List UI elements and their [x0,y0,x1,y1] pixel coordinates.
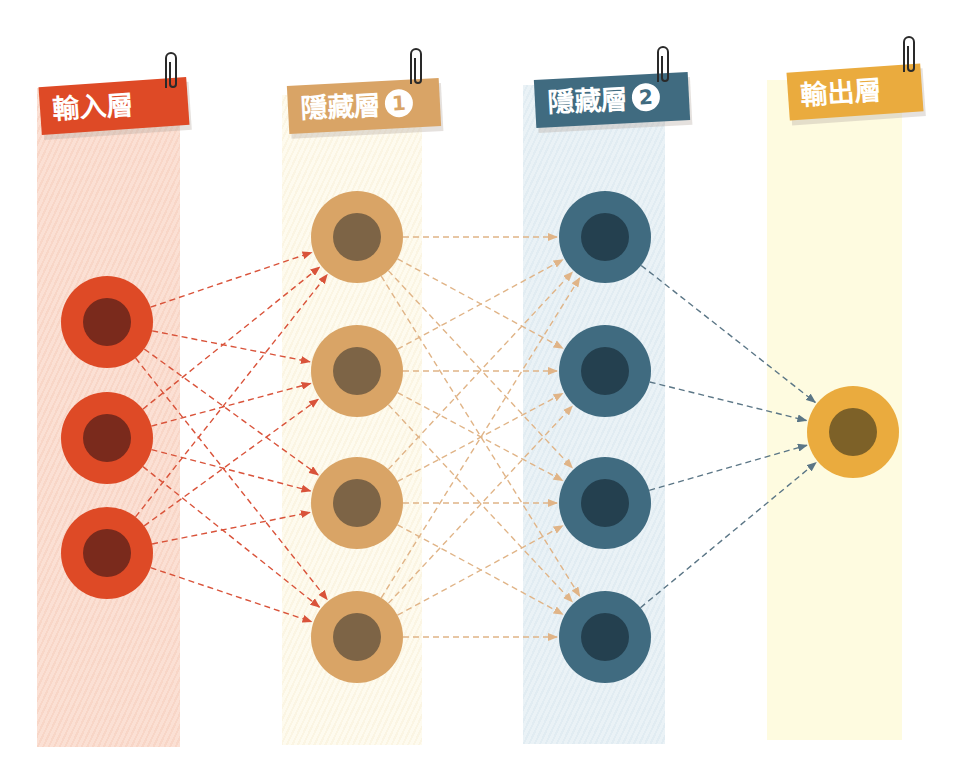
paperclip-icon [405,44,427,90]
node-core [581,347,629,395]
connection-input-2-to-hidden1-3 [151,568,312,622]
connection-input-1-to-hidden1-1 [151,383,310,426]
connection-hidden2-2-to-output-0 [649,445,807,490]
hidden1-node-3 [311,457,403,549]
output-node-1 [807,386,899,478]
node-core [333,213,381,261]
connection-input-2-to-hidden1-1 [144,399,318,526]
node-core [333,479,381,527]
output-layer-title: 輸出層 [799,74,882,111]
connection-hidden1-0-to-hidden2-2 [388,271,572,468]
hidden2-node-4 [559,591,651,683]
connection-input-0-to-hidden1-2 [144,349,318,475]
connection-hidden2-3-to-output-0 [640,463,816,608]
connection-hidden1-1-to-hidden2-2 [398,393,563,481]
connection-input-1-to-hidden1-3 [143,467,319,607]
input-node-2 [61,392,153,484]
connection-input-0-to-hidden1-0 [151,252,312,307]
connection-hidden1-2-to-hidden2-1 [398,394,563,482]
node-core [333,347,381,395]
connection-hidden1-3-to-hidden2-2 [397,526,562,615]
hidden1-node-1 [311,191,403,283]
connection-hidden1-0-to-hidden2-1 [397,259,562,348]
connection-input-2-to-hidden1-2 [152,512,310,544]
input-layer-title: 輸入層 [51,89,134,126]
connection-hidden2-0-to-output-0 [641,265,815,402]
node-core [333,613,381,661]
connection-input-0-to-hidden1-3 [136,358,328,599]
connection-hidden1-1-to-hidden2-0 [397,260,562,349]
node-core [581,213,629,261]
node-core [581,613,629,661]
node-core [581,479,629,527]
connection-hidden2-1-to-output-0 [650,382,807,421]
node-core [83,298,131,346]
connection-input-1-to-hidden1-2 [152,450,311,491]
hidden-layer-1-number-badge: 1 [384,88,413,117]
input-node-1 [61,276,153,368]
node-core [83,414,131,462]
hidden1-node-2 [311,325,403,417]
connection-input-0-to-hidden1-1 [152,331,310,362]
paperclip-icon [898,32,920,78]
hidden2-node-3 [559,457,651,549]
hidden1-node-4 [311,591,403,683]
hidden-layer-1-title: 隱藏層 [299,89,382,124]
paperclip-icon [160,48,182,94]
node-core [83,529,131,577]
hidden2-node-1 [559,191,651,283]
node-core [829,408,877,456]
hidden2-node-2 [559,325,651,417]
input-node-3 [61,507,153,599]
connection-hidden1-3-to-hidden2-1 [388,406,572,603]
hidden-layer-2-title: 隱藏層 [546,83,629,118]
connection-hidden1-2-to-hidden2-3 [397,525,562,614]
connection-input-1-to-hidden1-0 [143,267,320,409]
connection-input-2-to-hidden1-0 [136,275,328,517]
paperclip-icon [652,42,674,88]
